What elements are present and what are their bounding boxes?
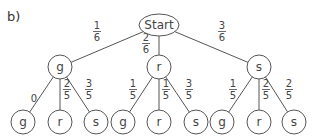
probability-numerator: 3	[219, 20, 225, 31]
node-r-s: s	[184, 110, 208, 134]
probability-numerator: 2	[286, 78, 292, 89]
probability-denominator: 6	[94, 32, 100, 43]
prob-g-g: 0	[31, 93, 37, 104]
probability-denominator: 6	[143, 44, 149, 55]
probability-denominator: 5	[163, 90, 169, 101]
probability-denominator: 5	[86, 90, 92, 101]
prob-start-r: 26	[142, 32, 150, 55]
node-r: r	[147, 55, 171, 79]
node-g: g	[48, 55, 72, 79]
prob-r-s: 35	[185, 78, 193, 101]
node-label: g	[218, 115, 226, 129]
prob-r-r: 15	[162, 78, 170, 101]
branch-start-s	[172, 30, 248, 62]
node-label: r	[157, 60, 162, 74]
prob-start-g: 16	[93, 20, 101, 43]
probability-numerator: 3	[186, 78, 192, 89]
probability-numerator: 1	[130, 78, 136, 89]
probability-denominator: 5	[186, 90, 192, 101]
probability-numerator: 1	[94, 20, 100, 31]
node-g-g: g	[11, 110, 35, 134]
node-label: r	[257, 115, 262, 129]
node-label: s	[291, 115, 297, 129]
node-label: g	[119, 115, 127, 129]
node-label: g	[19, 115, 27, 129]
node-r-g: g	[111, 110, 135, 134]
node-r-r: r	[147, 110, 171, 134]
node-s-r: r	[247, 110, 271, 134]
probability-denominator: 5	[286, 90, 292, 101]
probability-denominator: 5	[130, 90, 136, 101]
tree-nodes: Startgrsgrsgrsgrs	[11, 14, 306, 134]
probability-numerator: 1	[230, 78, 236, 89]
node-label: r	[58, 115, 63, 129]
node-s-s: s	[282, 110, 306, 134]
node-label: g	[56, 60, 64, 74]
prob-s-r: 25	[262, 78, 270, 101]
node-s: s	[247, 55, 271, 79]
node-start: Start	[139, 14, 179, 36]
probability-denominator: 5	[64, 90, 70, 101]
node-label: r	[157, 115, 162, 129]
probability-numerator: 3	[86, 78, 92, 89]
node-label: s	[193, 115, 199, 129]
prob-g-s: 35	[85, 78, 93, 101]
probability-numerator: 1	[163, 78, 169, 89]
prob-g-r: 25	[63, 78, 71, 101]
probability-tree-diagram: 16263602535151535152525 Startgrsgrsgrsgr…	[0, 0, 318, 137]
probability-denominator: 5	[263, 90, 269, 101]
probability-value: 0	[31, 93, 37, 104]
prob-s-g: 15	[229, 78, 237, 101]
node-s-g: g	[210, 110, 234, 134]
probability-denominator: 5	[230, 90, 236, 101]
probability-numerator: 2	[263, 78, 269, 89]
node-label: Start	[144, 18, 174, 32]
probability-numerator: 2	[64, 78, 70, 89]
probability-denominator: 6	[219, 32, 225, 43]
node-label: s	[93, 115, 99, 129]
prob-start-s: 36	[218, 20, 226, 43]
node-label: s	[256, 60, 262, 74]
prob-s-s: 25	[285, 78, 293, 101]
prob-r-g: 15	[129, 78, 137, 101]
node-g-r: r	[48, 110, 72, 134]
branch-start-g	[71, 30, 146, 62]
node-g-s: s	[84, 110, 108, 134]
